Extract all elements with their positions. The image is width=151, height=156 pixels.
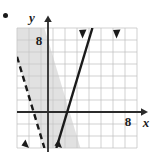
y-axis-label: y <box>27 10 35 25</box>
y-axis-tick-label-8: 8 <box>36 33 43 48</box>
x-axis-tick-label-8: 8 <box>125 114 132 129</box>
y-axis-arrow-icon <box>44 16 52 23</box>
coordinate-graph: y x 8 8 <box>0 0 151 156</box>
x-axis-label: x <box>142 115 150 130</box>
figure-container: y x 8 8 <box>0 0 151 156</box>
